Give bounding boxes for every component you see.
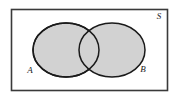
universe-label: S (157, 11, 162, 21)
set-a-label: A (26, 65, 33, 75)
set-b-label: B (140, 64, 146, 74)
venn-diagram-canvas: S A B (0, 0, 178, 99)
venn-diagram-figure: S A B (0, 0, 178, 99)
